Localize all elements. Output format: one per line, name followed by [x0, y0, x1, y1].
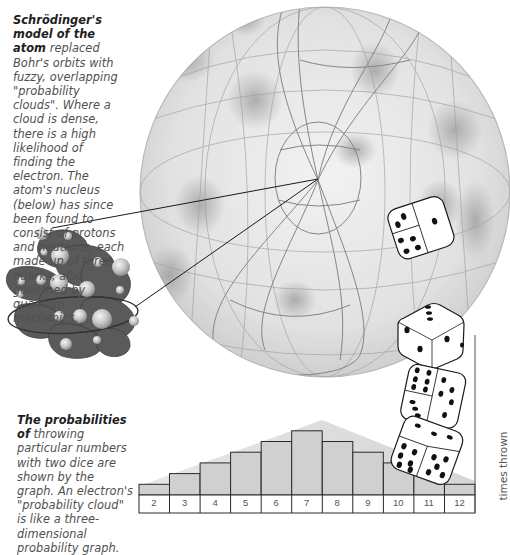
x-tick-label: 7 [292, 497, 322, 508]
y-axis-label: times thrown [497, 431, 509, 501]
x-tick-label: 4 [200, 497, 230, 508]
x-tick-label: 11 [414, 497, 444, 508]
dice-probability-caption-body: throwing particular numbers with two dic… [17, 427, 133, 555]
atom-model-caption: Schrödinger's model of the atom replaced… [13, 13, 125, 325]
x-tick-label: 6 [261, 497, 291, 508]
dice-probability-caption: The probabilities of throwing particular… [17, 413, 135, 555]
x-tick-label: 2 [139, 497, 169, 508]
x-tick-label: 9 [353, 497, 383, 508]
x-tick-label: 8 [322, 497, 352, 508]
bar-8 [322, 442, 353, 496]
bar-5 [231, 452, 262, 495]
bar-9 [353, 452, 384, 495]
bar-7 [292, 431, 323, 495]
x-tick-label: 10 [383, 497, 413, 508]
x-tick-label: 5 [231, 497, 261, 508]
bar-3 [170, 474, 201, 495]
atom-model-caption-body: replaced Bohr's orbits with fuzzy, overl… [13, 41, 124, 325]
bar-12 [445, 484, 476, 495]
x-tick-label: 12 [444, 497, 474, 508]
x-tick-label: 3 [170, 497, 200, 508]
bar-6 [261, 442, 292, 496]
bar-4 [200, 463, 231, 495]
bar-2 [139, 484, 170, 495]
